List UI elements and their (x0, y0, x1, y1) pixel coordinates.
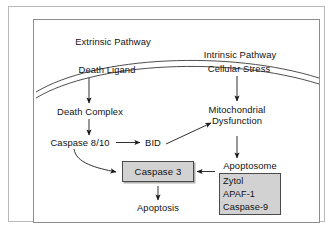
apoptosome-component-caspase9: Caspase-9 (223, 201, 280, 214)
arrow-caspase810-to-caspase3 (74, 149, 116, 172)
figure-outer-frame: Extrinsic Pathway Intrinsic Pathway Deat… (8, 6, 325, 222)
node-caspase-8-10: Caspase 8/10 (50, 137, 109, 148)
node-cellular-stress: Cellular Stress (208, 63, 270, 74)
apoptosome-component-zytol: Zytol (223, 175, 280, 188)
node-apoptosome-label: Apoptosome (223, 160, 277, 171)
node-caspase-3[interactable]: Caspase 3 (122, 161, 194, 182)
heading-intrinsic-pathway: Intrinsic Pathway (204, 49, 277, 60)
apoptosome-components-box[interactable]: Zytol APAF-1 Caspase-9 (219, 173, 281, 215)
heading-extrinsic-pathway: Extrinsic Pathway (75, 36, 151, 47)
node-mitochondrial-dysfunction-line2: Dysfunction (212, 115, 262, 126)
figure-root: Extrinsic Pathway Intrinsic Pathway Deat… (0, 0, 333, 229)
diagram-panel: Extrinsic Pathway Intrinsic Pathway Deat… (33, 19, 320, 223)
node-bid: BID (145, 137, 161, 148)
node-mitochondrial-dysfunction-line1: Mitochondrial (208, 104, 265, 115)
arrow-bid-to-mitochondria (166, 123, 211, 144)
node-caspase-3-label: Caspase 3 (135, 166, 182, 177)
node-death-ligand: Death Ligand (79, 64, 136, 75)
apoptosome-component-apaf1: APAF-1 (223, 188, 280, 201)
node-death-complex: Death Complex (57, 106, 123, 117)
node-apoptosis: Apoptosis (137, 202, 179, 213)
